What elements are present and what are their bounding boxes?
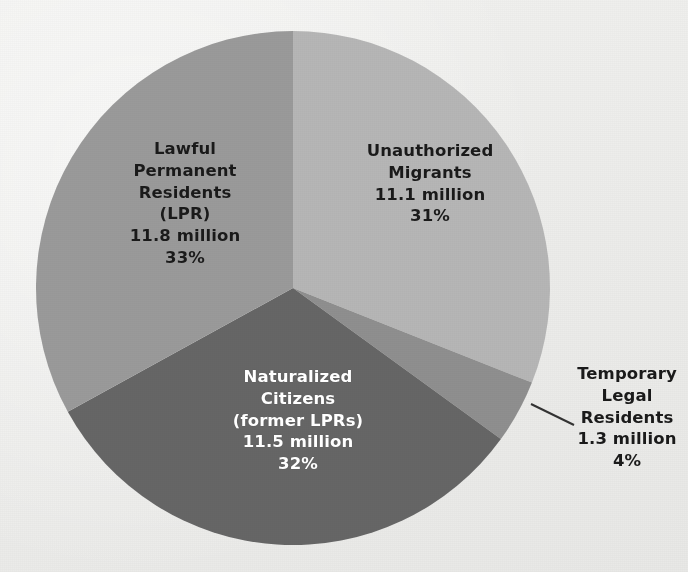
label-value: 11.8 million [85,225,285,247]
slice-label-unauthorized-migrants: Unauthorized Migrants 11.1 million 31% [330,140,530,227]
label-line: Temporary [568,363,686,385]
label-line: Migrants [330,162,530,184]
label-value: 1.3 million [568,428,686,450]
label-line: Lawful [85,138,285,160]
label-line: Legal [568,385,686,407]
label-line: Permanent [85,160,285,182]
label-line: Naturalized [193,366,403,388]
label-line: Residents [85,182,285,204]
label-line: Unauthorized [330,140,530,162]
label-line: Citizens [193,388,403,410]
slice-label-naturalized-citizens: Naturalized Citizens (former LPRs) 11.5 … [193,366,403,475]
label-percent: 33% [85,247,285,269]
label-line: (LPR) [85,203,285,225]
label-line: Residents [568,407,686,429]
label-percent: 31% [330,205,530,227]
pie-chart-figure: Unauthorized Migrants 11.1 million 31% T… [0,0,688,572]
label-line: (former LPRs) [193,410,403,432]
slice-label-lawful-permanent-residents: Lawful Permanent Residents (LPR) 11.8 mi… [85,138,285,269]
label-value: 11.1 million [330,184,530,206]
slice-label-temporary-legal-residents: Temporary Legal Residents 1.3 million 4% [568,363,686,472]
label-percent: 32% [193,453,403,475]
label-percent: 4% [568,450,686,472]
pie-chart-canvas [0,0,688,572]
label-value: 11.5 million [193,431,403,453]
